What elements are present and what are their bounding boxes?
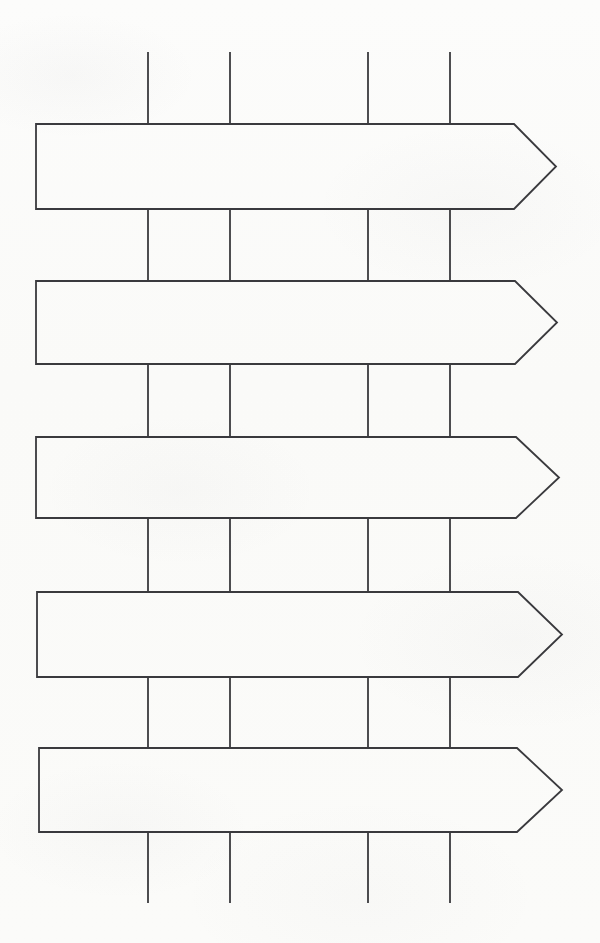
arrow-1 [36, 124, 556, 209]
page-canvas [0, 0, 600, 943]
arrow-ladder-diagram [0, 0, 600, 943]
arrow-2 [36, 281, 557, 364]
arrow-banners-layer [36, 124, 562, 832]
arrow-5 [39, 748, 562, 832]
arrow-3 [36, 437, 559, 518]
arrow-4 [37, 592, 562, 677]
